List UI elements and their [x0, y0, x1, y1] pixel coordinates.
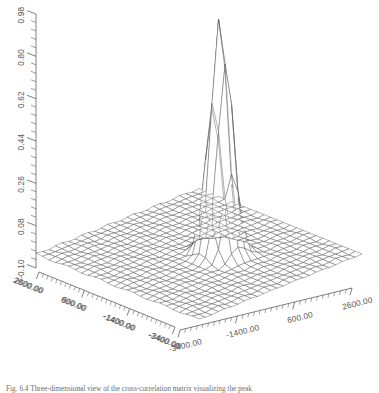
figure-container: 0.980.800.620.440.260.08-0.102600.00600.… [0, 0, 379, 393]
y-axis-tick-label: 2600.00 [341, 295, 373, 311]
x-axis-tick-label: 600.00 [60, 295, 88, 313]
z-axis-tick-label: 0.62 [17, 91, 26, 108]
z-axis-tick-label: 0.26 [17, 176, 26, 193]
z-axis-tick-label: 0.08 [17, 218, 26, 235]
z-axis-tick-label: 0.98 [17, 6, 26, 23]
surface-plot-svg: 0.980.800.620.440.260.08-0.102600.00600.… [0, 0, 379, 393]
z-axis-tick-label: 0.44 [17, 133, 26, 150]
y-axis-tick-label: 600.00 [286, 310, 314, 325]
y-axis-tick-label: -1400.00 [225, 323, 260, 340]
z-axis-tick-label: 0.80 [17, 49, 26, 66]
x-axis-tick-label: 2600.00 [13, 276, 45, 296]
figure-caption: Fig. 6.4 Three-dimensional view of the c… [6, 384, 378, 393]
